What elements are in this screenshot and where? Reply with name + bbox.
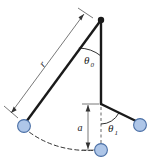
figure-root: r a θ 0 xyxy=(0,0,153,162)
angle-theta0-label-group: θ 0 xyxy=(84,54,95,69)
length-extension-tick-bottom xyxy=(4,106,18,118)
right-bob xyxy=(134,119,147,132)
length-dimension-line xyxy=(11,14,84,113)
length-arrowhead-top xyxy=(79,14,85,21)
left-bob xyxy=(18,120,31,133)
offset-arrowhead-bottom xyxy=(86,143,91,150)
length-dimension-group: r xyxy=(4,8,93,118)
angle-theta0-arc xyxy=(79,48,101,56)
length-label: r xyxy=(37,59,48,69)
offset-dimension-group: a xyxy=(78,104,100,150)
angle-theta1-label-group: θ 1 xyxy=(108,122,118,137)
angle-theta1-label: θ xyxy=(108,122,114,134)
pivot-point xyxy=(98,17,104,23)
swing-arc-dashed xyxy=(24,128,101,151)
rod-joint-to-right-bob xyxy=(101,104,138,122)
angle-theta0-label: θ xyxy=(84,54,90,66)
length-arrowhead-bottom xyxy=(11,107,17,113)
angle-theta0-subscript: 0 xyxy=(91,61,95,69)
offset-arrowhead-top xyxy=(86,105,91,112)
offset-label: a xyxy=(78,122,83,133)
angle-theta1-subscript: 1 xyxy=(115,129,119,137)
bottom-bob xyxy=(95,144,108,157)
rod-pivot-to-left-bob xyxy=(26,20,101,122)
pendulum-diagram: r a θ 0 xyxy=(0,0,153,162)
